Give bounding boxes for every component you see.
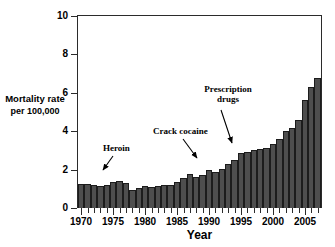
y-axis-tick-label-wrap: 10 (44, 11, 68, 21)
x-axis-tick (203, 208, 204, 213)
x-axis-tick-label: 1985 (157, 216, 197, 227)
x-axis-tick (228, 208, 229, 213)
x-axis-tick (267, 208, 268, 213)
x-axis-tick (254, 208, 255, 213)
x-axis-tick (209, 208, 210, 215)
x-axis-tick (235, 208, 236, 213)
y-axis-tick-label-wrap: 2 (44, 165, 68, 175)
x-axis-tick-label: 2005 (285, 216, 325, 227)
x-axis-tick (190, 208, 191, 213)
y-axis-title: Mortality rate per 100,000 (2, 93, 68, 117)
y-axis-title-line1: Mortality rate (2, 93, 68, 105)
x-axis-tick (196, 208, 197, 213)
x-axis-tick (100, 208, 101, 213)
x-axis-tick-label: 1995 (221, 216, 261, 227)
x-axis-tick-label: 1975 (93, 216, 133, 227)
x-axis-tick (292, 208, 293, 213)
x-axis-tick (273, 208, 274, 215)
x-axis-tick (139, 208, 140, 213)
x-axis-tick (94, 208, 95, 213)
y-axis-tick (71, 208, 77, 209)
x-axis-tick (152, 208, 153, 213)
x-axis-tick (177, 208, 178, 215)
x-axis-tick (171, 208, 172, 213)
y-axis-tick-label-wrap: 8 (44, 49, 68, 59)
x-axis-tick (260, 208, 261, 213)
x-axis-tick-label: 1980 (125, 216, 165, 227)
x-axis-tick (132, 208, 133, 213)
annotation-prescription-drugs-line2: drugs (197, 94, 259, 104)
annotation-heroin: Heroin (103, 143, 130, 153)
x-axis-tick (126, 208, 127, 213)
y-axis-title-line2: per 100,000 (2, 105, 68, 117)
y-axis-tick-label: 8 (46, 49, 68, 59)
y-axis-tick-label: 4 (46, 126, 68, 136)
x-axis-tick (215, 208, 216, 213)
x-axis-tick (107, 208, 108, 213)
x-axis-tick (164, 208, 165, 213)
x-axis-tick (305, 208, 306, 215)
x-axis-tick (184, 208, 185, 213)
x-axis-tick (222, 208, 223, 213)
annotation-prescription-drugs: Prescription drugs (197, 84, 259, 104)
y-axis-tick-label: 0 (46, 203, 68, 213)
x-axis-tick-label: 1990 (189, 216, 229, 227)
x-axis-tick (145, 208, 146, 215)
x-axis-tick-label: 1970 (61, 216, 101, 227)
annotation-prescription-drugs-line1: Prescription (197, 84, 259, 94)
x-axis-tick (81, 208, 82, 215)
y-axis-tick-label-wrap: 0 (44, 203, 68, 213)
annotation-crack-cocaine: Crack cocaine (153, 126, 208, 136)
x-axis-tick (247, 208, 248, 213)
x-axis-tick (311, 208, 312, 213)
x-axis-tick (88, 208, 89, 213)
y-axis-tick-label: 10 (46, 11, 68, 21)
x-axis-tick (158, 208, 159, 213)
x-axis-tick (279, 208, 280, 213)
x-axis-tick (286, 208, 287, 213)
bar-series (78, 16, 321, 208)
x-axis-tick-label: 2000 (253, 216, 293, 227)
x-axis-tick (241, 208, 242, 215)
bar (314, 78, 320, 208)
y-axis-tick-label: 2 (46, 165, 68, 175)
chart-figure: 024681019701975198019851990199520002005 … (0, 0, 335, 247)
y-axis-tick-label-wrap: 4 (44, 126, 68, 136)
x-axis-tick (299, 208, 300, 213)
x-axis-tick (120, 208, 121, 213)
x-axis-tick (318, 208, 319, 213)
x-axis-tick (113, 208, 114, 215)
x-axis-title: Year (77, 228, 322, 242)
